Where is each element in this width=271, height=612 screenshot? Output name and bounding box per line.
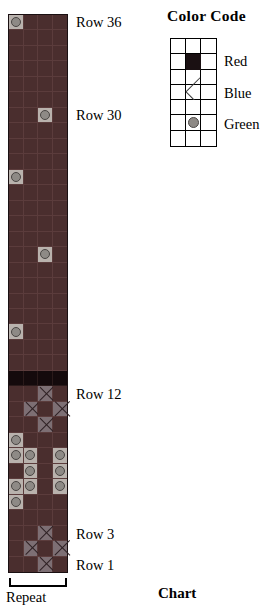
chart-cell-r19-c1 <box>9 278 24 293</box>
chart-cell-r3-c4 <box>53 526 68 541</box>
repeat-label: Repeat <box>6 590 46 605</box>
chart-cell-r35-c1 <box>9 30 24 45</box>
chart-cell-r23-c3 <box>38 216 53 231</box>
legend-label-green: Green <box>224 117 259 132</box>
chart-caption: Chart <box>158 586 196 601</box>
chart-cell-r17-c3 <box>38 309 53 324</box>
chart-cell-r2-c2 <box>24 541 39 556</box>
chart-cell-r20-c1 <box>9 263 24 278</box>
chart-cell-r32-c4 <box>53 77 68 92</box>
legend-cell-r2-c1 <box>171 54 186 69</box>
chart-cell-r22-c4 <box>53 232 68 247</box>
chart-cell-r4-c4 <box>53 510 68 525</box>
chart-cell-r18-c2 <box>24 294 39 309</box>
legend-cell-r4-c3 <box>201 85 216 100</box>
chart-cell-r1-c2 <box>24 557 39 572</box>
chart-cell-r35-c2 <box>24 30 39 45</box>
chart-cell-r9-c4 <box>53 433 68 448</box>
chart-cell-r11-c2 <box>24 402 39 417</box>
chart-cell-r34-c4 <box>53 46 68 61</box>
legend-cell-r7-c2 <box>186 131 201 146</box>
chart-cell-r11-c1 <box>9 402 24 417</box>
chart-cell-r27-c3 <box>38 154 53 169</box>
row-label-12: Row 12 <box>76 387 122 402</box>
chart-cell-r31-c3 <box>38 92 53 107</box>
chart-cell-r5-c4 <box>53 495 68 510</box>
legend-cell-r1-c3 <box>201 39 216 54</box>
chart-cell-r5-c1 <box>9 495 24 510</box>
chart-cell-r29-c3 <box>38 123 53 138</box>
chart-cell-r15-c1 <box>9 340 24 355</box>
chart-cell-r20-c2 <box>24 263 39 278</box>
chart-cell-r36-c1 <box>9 15 24 30</box>
legend-label-red: Red <box>224 54 247 69</box>
chart-cell-r6-c3 <box>38 479 53 494</box>
chart-cell-r35-c4 <box>53 30 68 45</box>
chart-cell-r33-c3 <box>38 61 53 76</box>
chart-cell-r21-c4 <box>53 247 68 262</box>
chart-cell-r21-c1 <box>9 247 24 262</box>
chart-cell-r36-c2 <box>24 15 39 30</box>
chart-cell-r2-c1 <box>9 541 24 556</box>
chart-cell-r13-c3 <box>38 371 53 386</box>
chart-cell-r34-c2 <box>24 46 39 61</box>
chart-cell-r15-c3 <box>38 340 53 355</box>
chart-cell-r3-c2 <box>24 526 39 541</box>
chart-cell-r6-c4 <box>53 479 68 494</box>
chart-cell-r24-c2 <box>24 201 39 216</box>
chart-cell-r29-c4 <box>53 123 68 138</box>
legend-cell-r6-c3 <box>201 115 216 130</box>
chart-cell-r27-c1 <box>9 154 24 169</box>
legend-cell-r2-c3 <box>201 54 216 69</box>
chart-cell-r30-c2 <box>24 108 39 123</box>
chart-cell-r8-c4 <box>53 448 68 463</box>
chart-cell-r14-c1 <box>9 355 24 370</box>
chart-cell-r29-c2 <box>24 123 39 138</box>
chart-cell-r30-c4 <box>53 108 68 123</box>
chart-cell-r26-c3 <box>38 170 53 185</box>
chart-cell-r33-c1 <box>9 61 24 76</box>
chart-cell-r24-c3 <box>38 201 53 216</box>
chart-cell-r8-c1 <box>9 448 24 463</box>
colorwork-chart-grid <box>8 14 68 573</box>
chart-cell-r21-c3 <box>38 247 53 262</box>
chart-cell-r7-c3 <box>38 464 53 479</box>
row-label-3: Row 3 <box>76 527 114 542</box>
chart-cell-r33-c4 <box>53 61 68 76</box>
chart-cell-r31-c1 <box>9 92 24 107</box>
legend-cell-r7-c1 <box>171 131 186 146</box>
repeat-bracket <box>9 578 67 587</box>
chart-cell-r10-c1 <box>9 417 24 432</box>
chart-cell-r25-c4 <box>53 185 68 200</box>
chart-cell-r30-c1 <box>9 108 24 123</box>
legend-grid <box>170 38 217 147</box>
chart-cell-r4-c3 <box>38 510 53 525</box>
chart-cell-r10-c4 <box>53 417 68 432</box>
row-label-30: Row 30 <box>76 108 122 123</box>
chart-cell-r28-c3 <box>38 139 53 154</box>
chart-cell-r34-c1 <box>9 46 24 61</box>
chart-cell-r16-c2 <box>24 324 39 339</box>
chart-cell-r10-c3 <box>38 417 53 432</box>
chart-cell-r21-c2 <box>24 247 39 262</box>
chart-cell-r5-c2 <box>24 495 39 510</box>
chart-cell-r1-c4 <box>53 557 68 572</box>
chart-cell-r6-c1 <box>9 479 24 494</box>
chart-cell-r15-c4 <box>53 340 68 355</box>
chart-page: Row 36 Row 30 Row 12 Row 3 Row 1 Repeat … <box>0 0 271 612</box>
chart-cell-r19-c2 <box>24 278 39 293</box>
chart-cell-r17-c4 <box>53 309 68 324</box>
chart-cell-r23-c2 <box>24 216 39 231</box>
chart-cell-r4-c2 <box>24 510 39 525</box>
chart-cell-r5-c3 <box>38 495 53 510</box>
chart-cell-r10-c2 <box>24 417 39 432</box>
chart-cell-r34-c3 <box>38 46 53 61</box>
legend-cell-r5-c2 <box>186 100 201 115</box>
row-label-1: Row 1 <box>76 558 114 573</box>
chart-cell-r11-c3 <box>38 402 53 417</box>
legend-cell-r3-c3 <box>201 70 216 85</box>
chart-cell-r20-c4 <box>53 263 68 278</box>
chart-cell-r17-c1 <box>9 309 24 324</box>
legend-label-blue: Blue <box>224 86 251 101</box>
chart-cell-r25-c2 <box>24 185 39 200</box>
